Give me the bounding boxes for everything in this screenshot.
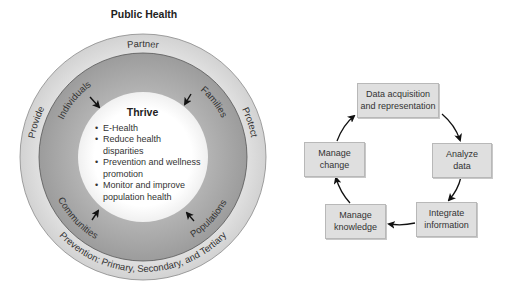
bullet-item: Monitor and improve population health <box>95 180 203 203</box>
center-heading: Thrive <box>95 107 190 119</box>
arrow-icon-change-to-acquisition <box>337 116 354 141</box>
svg-text:Partner: Partner <box>127 38 160 50</box>
step-label-line2: information <box>424 220 469 230</box>
outer-label-partner: Partner <box>127 38 160 50</box>
step-data-acquisition: Data acquisitionand representation <box>357 83 439 118</box>
bullet-item: Reduce health disparities <box>95 134 175 157</box>
step-label-line1: Manage <box>339 210 372 220</box>
step-manage-change: Managechange <box>304 142 365 177</box>
center-bullet-list: E-Health Reduce health disparities Preve… <box>95 123 215 204</box>
step-analyze-data: Analyzedata <box>432 143 492 178</box>
step-label-line1: Manage <box>318 148 351 158</box>
step-label-line2: data <box>453 161 471 171</box>
arrow-icon-acquisition-to-analyze <box>442 114 460 140</box>
bullet-item: Prevention and wellness promotion <box>95 157 203 180</box>
step-label-line1: Data acquisition <box>366 89 430 99</box>
step-label-line1: Analyze <box>446 149 478 159</box>
step-label-line2: and representation <box>360 101 435 111</box>
step-integrate-information: Integrateinformation <box>416 202 477 237</box>
arrow-icon-knowledge-to-change <box>336 178 350 203</box>
center-content: Thrive E-Health Reduce health disparitie… <box>95 107 215 203</box>
step-label-line1: Integrate <box>429 208 465 218</box>
step-label-line2: change <box>320 160 350 170</box>
step-manage-knowledge: Manageknowledge <box>325 204 386 239</box>
step-label-line2: knowledge <box>334 222 377 232</box>
arrow-icon-integrate-to-knowledge <box>389 223 415 225</box>
arrow-icon-analyze-to-integrate <box>449 177 461 200</box>
bullet-item: E-Health <box>95 123 215 135</box>
